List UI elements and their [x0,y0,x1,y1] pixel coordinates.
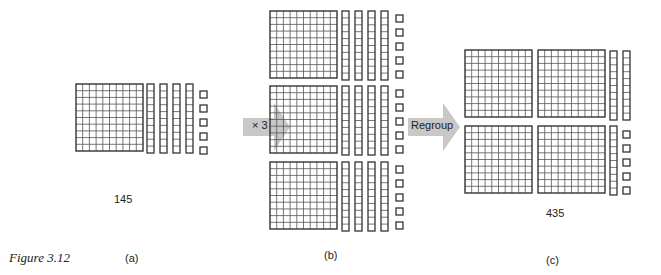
hundreds-flat-block [76,84,143,151]
ones-unit-block [396,146,403,153]
tens-rod-block [173,84,180,153]
hundreds-flat-block [270,162,337,229]
hundreds-flat-block [465,50,532,117]
tens-rod-block [147,84,154,153]
ones-unit-block [396,43,403,50]
regroup-arrow-label: Regroup [411,119,453,131]
panel-a-value-label: 145 [114,193,132,205]
tens-rod-block [355,11,362,80]
hundreds-flat-block [270,11,337,78]
base-ten-blocks-diagram [0,0,661,275]
ones-unit-block [396,29,403,36]
tens-rod-block [623,51,630,120]
ones-unit-block [396,118,403,125]
hundreds-flat-block [465,126,532,193]
panel-c-label: (c) [546,254,559,266]
tens-rod-block [160,84,167,153]
tens-rod-block [355,86,362,155]
ones-unit-block [200,133,207,140]
ones-unit-block [623,187,630,194]
tens-rod-block [368,86,375,155]
hundreds-flat-block [538,50,605,117]
tens-rod-block [381,86,388,155]
ones-unit-block [396,90,403,97]
ones-unit-block [396,57,403,64]
tens-rod-block [342,11,349,80]
ones-unit-block [396,222,403,229]
tens-rod-block [342,86,349,155]
tens-rod-block [381,162,388,231]
ones-unit-block [200,91,207,98]
ones-unit-block [200,119,207,126]
ones-unit-block [396,71,403,78]
ones-unit-block [396,180,403,187]
panel-b-label: (b) [324,249,337,261]
hundreds-flat-block [538,126,605,193]
ones-unit-block [623,145,630,152]
times-three-arrow-label: × 3 [252,119,268,131]
tens-rod-block [186,84,193,153]
tens-rod-block [355,162,362,231]
tens-rod-block [610,51,617,120]
ones-unit-block [396,166,403,173]
panel-c-value-label: 435 [546,207,564,219]
hundreds-flat-block [270,86,337,153]
tens-rod-block [381,11,388,80]
ones-unit-block [623,131,630,138]
figure-caption: Figure 3.12 [9,250,70,266]
panel-a-label: (a) [125,252,138,264]
ones-unit-block [396,194,403,201]
ones-unit-block [396,132,403,139]
ones-unit-block [200,105,207,112]
tens-rod-block [368,162,375,231]
tens-rod-block [610,126,617,195]
ones-unit-block [396,15,403,22]
ones-unit-block [623,159,630,166]
tens-rod-block [368,11,375,80]
ones-unit-block [396,208,403,215]
ones-unit-block [623,173,630,180]
tens-rod-block [342,162,349,231]
ones-unit-block [396,104,403,111]
ones-unit-block [200,147,207,154]
